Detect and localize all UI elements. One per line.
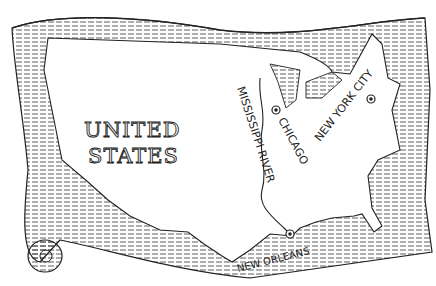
scroll-roll-end: [28, 240, 62, 272]
map-illustration: UNITED STATES MISSISSIPPI RIVER CHICAGO …: [0, 0, 436, 286]
scroll-map-drawing: UNITED STATES MISSISSIPPI RIVER CHICAGO …: [0, 0, 436, 286]
map-title-line2: STATES: [88, 144, 179, 168]
map-title-line1: UNITED: [84, 118, 181, 142]
